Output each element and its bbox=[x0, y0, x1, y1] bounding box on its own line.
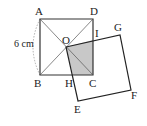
geometry-diagram: A D B C O I G H F E 6 cm bbox=[0, 0, 147, 126]
label-O: O bbox=[62, 34, 70, 46]
label-E: E bbox=[74, 103, 81, 115]
label-F: F bbox=[131, 89, 137, 101]
label-A: A bbox=[35, 5, 43, 17]
side-length-label: 6 cm bbox=[14, 38, 34, 49]
label-B: B bbox=[34, 77, 41, 89]
label-G: G bbox=[114, 21, 122, 33]
label-I: I bbox=[95, 27, 99, 39]
side-length-arc bbox=[33, 19, 40, 75]
label-H: H bbox=[65, 77, 73, 89]
shaded-region-OICH bbox=[66, 40, 93, 75]
label-D: D bbox=[90, 5, 98, 17]
label-C: C bbox=[89, 77, 96, 89]
